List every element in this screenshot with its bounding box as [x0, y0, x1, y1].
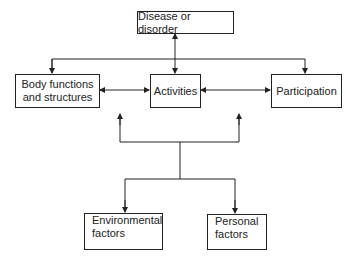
participation-node: Participation	[271, 74, 342, 108]
disease-node: Disease or disorder	[137, 11, 234, 34]
body-label-line2: and structures	[23, 91, 93, 104]
activities-label: Activities	[154, 85, 197, 98]
connector-lines	[0, 0, 346, 256]
body-functions-node: Body functions and structures	[15, 74, 100, 108]
participation-label: Participation	[276, 85, 337, 98]
disease-label: Disease or disorder	[138, 10, 233, 36]
environmental-label-line1: Environmental	[92, 214, 162, 227]
environmental-factors-node: Environmental factors	[84, 213, 163, 250]
environmental-label-line2: factors	[92, 227, 125, 240]
personal-label-line1: Personal	[215, 215, 258, 228]
personal-factors-node: Personal factors	[207, 214, 267, 250]
activities-node: Activities	[150, 74, 201, 108]
body-label-line1: Body functions	[21, 78, 93, 91]
personal-label-line2: factors	[215, 228, 248, 241]
